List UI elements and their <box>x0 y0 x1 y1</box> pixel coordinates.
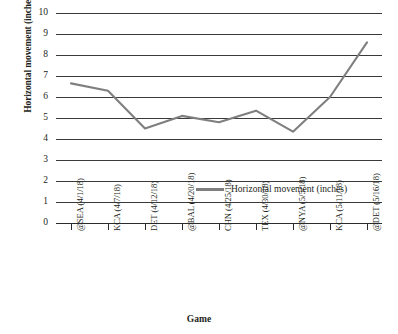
y-tick-0: 0 <box>24 218 48 228</box>
x-tick-label-1: KCA (4/7/18) <box>112 184 122 231</box>
x-tick-label-2: DET (4/12/18) <box>149 181 159 231</box>
x-tick-3 <box>182 223 183 230</box>
y-tick-3: 3 <box>24 155 48 165</box>
x-tick-6 <box>293 223 294 230</box>
x-tick-1 <box>108 223 109 230</box>
legend-label: Horizontal movement (inches) <box>231 184 347 194</box>
series-line-0 <box>71 42 367 131</box>
x-axis-title: Game <box>0 314 398 324</box>
y-axis-title: Horizontal movement (inches) <box>23 0 33 141</box>
y-tick-1: 1 <box>24 197 48 207</box>
x-tick-4 <box>219 223 220 230</box>
x-tick-label-0: @SEA (4/1/18) <box>75 178 85 231</box>
x-tick-label-8: @DET (5/16/18) <box>371 173 381 231</box>
chart-legend: Horizontal movement (inches) <box>196 184 347 194</box>
x-tick-7 <box>330 223 331 230</box>
x-tick-5 <box>256 223 257 230</box>
legend-swatch-icon <box>196 188 224 191</box>
x-tick-2 <box>145 223 146 230</box>
x-tick-8 <box>367 223 368 230</box>
line-chart: Horizontal movement (inches) 10987654321… <box>0 0 398 334</box>
x-tick-0 <box>71 223 72 230</box>
y-tick-2: 2 <box>24 176 48 186</box>
x-tick-label-3: @BAL (4/20/18) <box>186 173 196 231</box>
